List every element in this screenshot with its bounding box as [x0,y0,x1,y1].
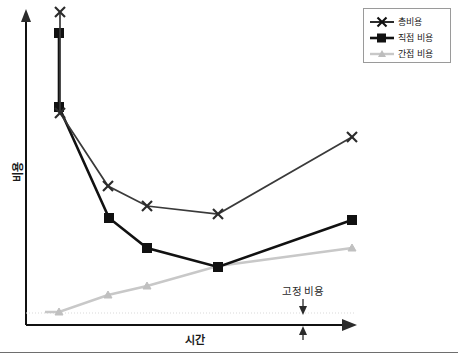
legend-marker-x-icon [369,16,395,28]
series-total-cost [55,7,357,219]
legend-item-indirect-cost: 간접 비용 [369,46,446,61]
legend-label-total-cost: 총비용 [395,16,422,28]
legend-item-total-cost: 총비용 [369,14,446,29]
cost-over-time-chart-figure: 비용 시간 고정 비용 총비용 직접 비용 [0,0,458,363]
chart-legend: 총비용 직접 비용 간접 비용 [363,8,451,63]
legend-label-direct-cost: 직접 비용 [395,32,433,44]
cut-off-footer-text [6,354,206,363]
x-axis [26,319,357,331]
fixed-cost-annotation [299,299,307,340]
page-divider [0,352,458,353]
series-indirect-cost [45,244,356,315]
legend-item-direct-cost: 직접 비용 [369,30,446,45]
legend-label-indirect-cost: 간접 비용 [395,48,433,60]
legend-marker-triangle-icon [369,48,395,60]
legend-marker-square-icon [369,32,395,44]
fixed-cost-annotation-label: 고정 비용 [282,285,325,297]
x-axis-label: 시간 [185,333,205,346]
series-direct-cost [55,29,357,272]
y-axis-label: 비용 [11,162,24,182]
